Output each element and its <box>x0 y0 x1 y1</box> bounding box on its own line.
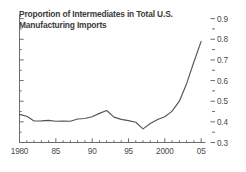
x-axis: 1980859095200005 <box>11 138 206 155</box>
y-axis-tick-label: 0.9 <box>217 15 228 24</box>
x-axis-tick-label: 85 <box>51 147 60 156</box>
data-series-line <box>20 41 202 129</box>
y-axis-left-major-ticks <box>20 19 24 143</box>
y-axis-left <box>20 15 24 143</box>
x-axis-tick-label: 05 <box>197 147 206 156</box>
x-axis-tick-label: 95 <box>124 147 133 156</box>
y-axis-tick-label: 0.7 <box>217 56 228 65</box>
x-axis-tick-label: 90 <box>88 147 97 156</box>
line-chart-plot: 1980859095200005 0.30.40.50.60.70.80.9 <box>0 0 246 172</box>
y-axis-right: 0.30.40.50.60.70.80.9 <box>211 15 229 148</box>
y-axis-right-major-ticks <box>211 19 216 143</box>
x-axis-tick-label: 1980 <box>11 147 29 156</box>
y-axis-tick-label: 0.5 <box>217 97 228 106</box>
x-axis-tick-labels: 1980859095200005 <box>11 147 206 156</box>
chart-screenshot: Proportion of Intermediates in Total U.S… <box>0 0 246 172</box>
x-axis-major-ticks <box>20 138 202 142</box>
y-axis-tick-labels: 0.30.40.50.60.70.80.9 <box>217 15 228 148</box>
y-axis-tick-label: 0.3 <box>217 139 228 148</box>
x-axis-tick-label: 2000 <box>156 147 174 156</box>
y-axis-tick-label: 0.6 <box>217 77 228 86</box>
y-axis-tick-label: 0.8 <box>217 35 228 44</box>
y-axis-tick-label: 0.4 <box>217 118 228 127</box>
